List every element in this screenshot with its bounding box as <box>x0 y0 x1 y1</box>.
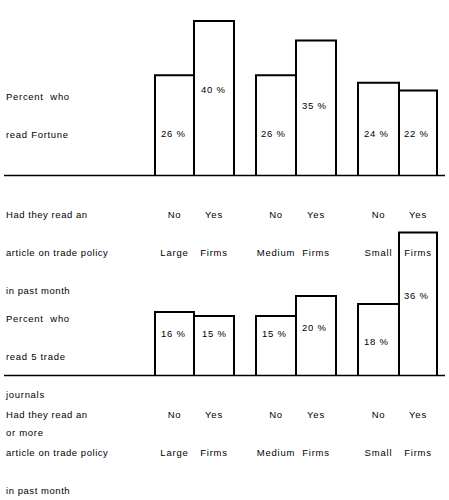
journals-y-axis-label-line-2: read 5 trade <box>6 351 70 364</box>
journals-x-axis-caption: Had they read an article on trade policy… <box>6 384 108 500</box>
journals-tick-small-yes-bottom: Firms <box>399 447 437 460</box>
journals-bar-outline <box>256 316 296 376</box>
fortune-value-medium-no: 26 % <box>261 128 286 141</box>
fortune-x-axis-caption-line-1: Had they read an <box>6 209 108 222</box>
fortune-tick-large-yes-bottom: Firms <box>194 247 234 260</box>
fortune-tick-large-yes: Yes Firms <box>194 184 234 285</box>
journals-bar-outline <box>194 316 234 376</box>
fortune-tick-small-no-top: No <box>358 209 399 222</box>
fortune-tick-medium-no: No Medium <box>256 184 296 285</box>
journals-tick-small-no-top: No <box>358 409 399 422</box>
fortune-tick-medium-no-top: No <box>256 209 296 222</box>
fortune-y-axis-label-line-1: Percent who <box>6 91 70 104</box>
fortune-tick-small-yes-bottom: Firms <box>399 247 437 260</box>
journals-bar-outline <box>296 296 336 375</box>
fortune-tick-medium-no-bottom: Medium <box>256 247 296 260</box>
fortune-tick-large-no-bottom: Large <box>155 247 194 260</box>
fortune-value-medium-yes: 35 % <box>302 100 327 113</box>
journals-value-small-no: 18 % <box>364 336 389 349</box>
fortune-value-small-yes: 22 % <box>404 128 429 141</box>
journals-value-medium-no: 15 % <box>262 328 287 341</box>
journals-value-small-yes: 36 % <box>404 290 429 303</box>
fortune-x-axis-caption-line-2: article on trade policy <box>6 247 108 260</box>
fortune-tick-small-no-bottom: Small <box>358 247 399 260</box>
fortune-tick-medium-yes-bottom: Firms <box>296 247 336 260</box>
fortune-tick-medium-yes: Yes Firms <box>296 184 336 285</box>
journals-tick-medium-no-bottom: Medium <box>256 447 296 460</box>
journals-value-medium-yes: 20 % <box>302 322 327 335</box>
fortune-y-axis-label-line-2: read Fortune <box>6 129 70 142</box>
fortune-value-large-no: 26 % <box>161 128 186 141</box>
journals-tick-medium-no-top: No <box>256 409 296 422</box>
fortune-value-large-yes: 40 % <box>201 84 226 97</box>
journals-value-large-no: 16 % <box>161 328 186 341</box>
journals-tick-medium-yes: Yes Firms <box>296 384 336 485</box>
fortune-tick-large-no: No Large <box>155 184 194 285</box>
journals-x-axis-caption-line-3: in past month <box>6 485 108 498</box>
journals-tick-small-no: No Small <box>358 384 399 485</box>
journals-tick-medium-yes-bottom: Firms <box>296 447 336 460</box>
journals-tick-small-no-bottom: Small <box>358 447 399 460</box>
fortune-bar-outline <box>155 75 194 175</box>
journals-x-axis-caption-line-2: article on trade policy <box>6 447 108 460</box>
journals-tick-large-no-top: No <box>155 409 194 422</box>
fortune-tick-medium-yes-top: Yes <box>296 209 336 222</box>
journals-tick-large-no-bottom: Large <box>155 447 194 460</box>
fortune-tick-small-yes-top: Yes <box>399 209 437 222</box>
journals-bar-outline <box>155 312 194 376</box>
fortune-y-axis-label: Percent who read Fortune <box>6 66 70 167</box>
journals-tick-large-yes-bottom: Firms <box>194 447 234 460</box>
fortune-bar-outline <box>256 75 296 175</box>
journals-x-axis-caption-line-1: Had they read an <box>6 409 108 422</box>
journals-tick-large-yes-top: Yes <box>194 409 234 422</box>
journals-value-large-yes: 15 % <box>202 328 227 341</box>
fortune-bar-outline <box>194 21 234 175</box>
journals-tick-small-yes-top: Yes <box>399 409 437 422</box>
fortune-tick-small-no: No Small <box>358 184 399 285</box>
fortune-tick-small-yes: Yes Firms <box>399 184 437 285</box>
journals-tick-medium-yes-top: Yes <box>296 409 336 422</box>
journals-tick-large-yes: Yes Firms <box>194 384 234 485</box>
journals-tick-large-no: No Large <box>155 384 194 485</box>
fortune-tick-large-yes-top: Yes <box>194 209 234 222</box>
journals-tick-medium-no: No Medium <box>256 384 296 485</box>
journals-tick-small-yes: Yes Firms <box>399 384 437 485</box>
journals-y-axis-label-line-1: Percent who <box>6 313 70 326</box>
fortune-tick-large-no-top: No <box>155 209 194 222</box>
fortune-value-small-no: 24 % <box>364 128 389 141</box>
